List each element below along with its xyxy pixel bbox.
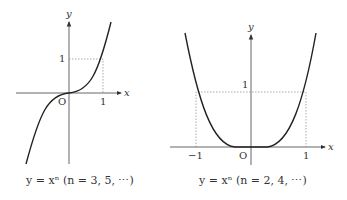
tick-x-1: 1 — [303, 150, 309, 161]
x-axis-label: x — [328, 141, 334, 152]
quartic-curve — [185, 33, 316, 147]
even-power-graph: y x O 1 −1 1 — [170, 21, 334, 165]
y-axis-label: y — [65, 8, 72, 19]
left-caption: y = xⁿ (n = 3, 5, ⋯) — [26, 174, 134, 187]
origin-label: O — [239, 150, 247, 161]
right-caption: y = xⁿ (n = 2, 4, ⋯) — [199, 174, 307, 187]
origin-label: O — [58, 96, 66, 107]
tick-y-1: 1 — [59, 53, 65, 64]
odd-power-graph: y x O 1 1 — [16, 8, 130, 164]
x-axis-label: x — [124, 87, 130, 98]
tick-x-neg-1: −1 — [188, 150, 203, 161]
y-axis-label: y — [247, 21, 254, 32]
graphs: y x O 1 1 y x O 1 −1 1 — [0, 0, 347, 200]
tick-x-1: 1 — [100, 96, 106, 107]
tick-y-1: 1 — [242, 79, 248, 90]
